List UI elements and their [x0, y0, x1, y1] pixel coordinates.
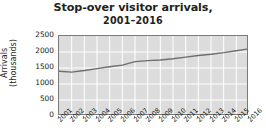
chart-title-line2: 2001–2016 — [0, 15, 266, 28]
y-tick-label-1500: 1500 — [26, 63, 54, 71]
plot-area — [58, 35, 248, 115]
vertical-gridlines — [72, 36, 248, 115]
horizontal-gridlines — [59, 52, 248, 100]
y-tick-label-1000: 1000 — [26, 79, 54, 87]
y-tick-label-500: 500 — [26, 95, 54, 103]
y-axis-title-line2: (thousands) — [9, 28, 18, 98]
plot-svg — [59, 36, 248, 115]
y-tick-label-2500: 2500 — [26, 31, 54, 39]
y-tick-label-0: 0 — [26, 111, 54, 119]
chart-figure: Stop-over visitor arrivals, 2001–2016 Ar… — [0, 0, 266, 139]
y-tick-label-2000: 2000 — [26, 47, 54, 55]
chart-title: Stop-over visitor arrivals, 2001–2016 — [0, 2, 266, 27]
x-tick-labels: 2001200220032004200520062007200820092010… — [58, 116, 248, 139]
y-axis-title-line1: Arrivals — [0, 28, 9, 98]
chart-title-line1: Stop-over visitor arrivals, — [53, 1, 212, 14]
